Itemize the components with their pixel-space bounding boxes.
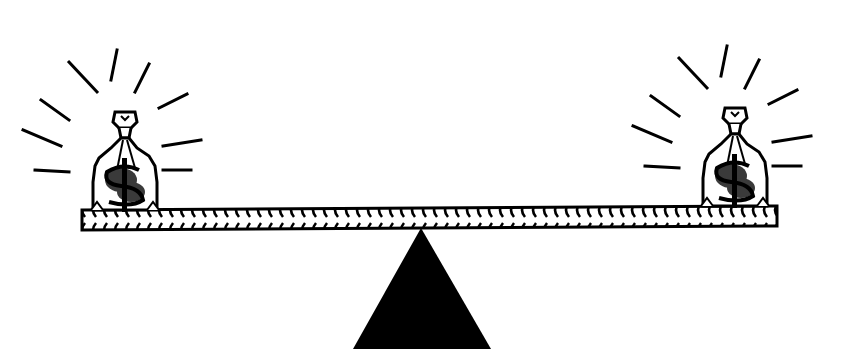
triangle-fulcrum-icon xyxy=(353,228,491,349)
beam xyxy=(82,206,777,230)
right-money-bag-icon xyxy=(633,46,811,208)
left-money-bag-icon xyxy=(23,50,201,212)
balance-scale-illustration xyxy=(0,0,863,364)
